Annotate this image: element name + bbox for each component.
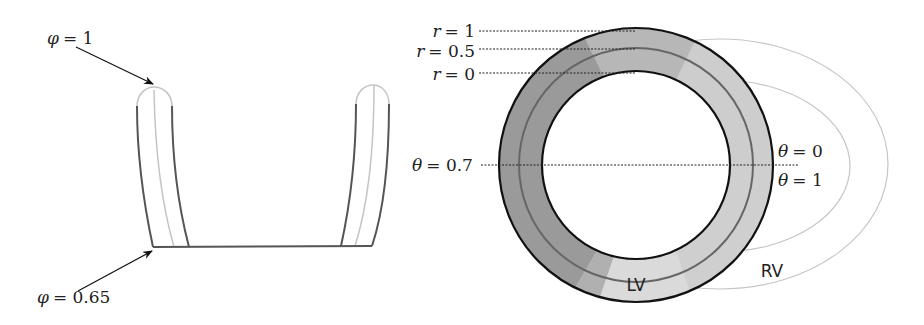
- label-theta-0: θ= 0: [778, 141, 823, 161]
- label-theta-1: θ= 1: [778, 170, 823, 190]
- left-wall: [137, 87, 189, 247]
- right-diagram: r= 1 r= 0.5 r= 0 θ= 0.7 θ= 0 θ= 1 LV RV: [412, 21, 888, 302]
- arrow-phi-1: [76, 47, 153, 84]
- label-r-0: r= 0: [432, 64, 475, 84]
- left-diagram: φ= 1 φ= 0.65: [37, 28, 389, 307]
- label-r-05: r= 0.5: [416, 41, 475, 61]
- label-r-1: r= 1: [432, 21, 475, 41]
- arrow-phi-065: [78, 251, 152, 291]
- right-wall: [341, 85, 389, 246]
- label-phi-065: φ= 0.65: [37, 287, 110, 307]
- label-rv: RV: [761, 261, 784, 281]
- figure-canvas: φ= 1 φ= 0.65: [0, 0, 924, 325]
- label-phi-1: φ= 1: [47, 28, 93, 48]
- label-theta-07: θ= 0.7: [412, 155, 473, 175]
- label-lv: LV: [626, 275, 646, 295]
- base-line: [153, 246, 372, 247]
